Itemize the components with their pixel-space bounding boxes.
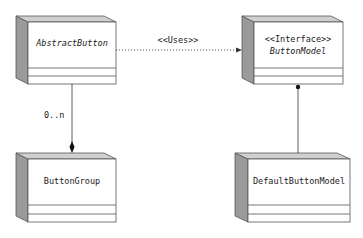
class-stereotype: <<Interface>>	[265, 34, 332, 44]
class-abstract-button[interactable]: AbstractButton	[16, 16, 116, 84]
class-default-button-model[interactable]: DefaultButtonModel	[235, 153, 350, 222]
class-button-group[interactable]: ButtonGroup	[16, 153, 116, 222]
relation-label: <<Uses>>	[158, 35, 199, 45]
box-side-face	[235, 153, 248, 222]
box-top-face	[16, 153, 116, 159]
box-top-face	[242, 16, 343, 22]
box-front-face	[28, 159, 116, 222]
multiplicity-label: 0..n	[44, 110, 64, 120]
box-front-face	[248, 159, 350, 222]
class-name: AbstractButton	[35, 38, 108, 48]
class-name: ButtonGroup	[44, 176, 100, 186]
relation-uses[interactable]: <<Uses>>	[116, 35, 242, 53]
class-name: ButtonModel	[270, 46, 326, 56]
class-button-model[interactable]: <<Interface>> ButtonModel	[242, 16, 343, 84]
diamond-icon	[70, 141, 75, 153]
box-side-face	[16, 16, 28, 84]
class-name: DefaultButtonModel	[253, 176, 345, 186]
relation-model-realization[interactable]	[296, 85, 300, 153]
box-top-face	[16, 16, 116, 22]
box-side-face	[16, 153, 28, 222]
box-top-face	[235, 153, 350, 159]
uml-diagram: AbstractButton <<Interface>> ButtonModel…	[0, 0, 363, 238]
box-side-face	[242, 16, 254, 84]
arrowhead-icon	[236, 48, 242, 53]
box-front-face	[28, 22, 116, 84]
relation-group-aggregation[interactable]: 0..n	[44, 84, 75, 153]
